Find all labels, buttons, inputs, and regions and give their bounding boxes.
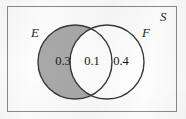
region-value-f-only: 0.4 xyxy=(108,55,134,68)
region-value-e-and-f: 0.1 xyxy=(79,55,105,68)
set-label-e: E xyxy=(31,26,39,39)
region-value-e-only: 0.3 xyxy=(50,55,76,68)
venn-diagram-figure: S E F 0.3 0.1 0.4 xyxy=(0,0,186,119)
universal-set-label: S xyxy=(160,10,167,23)
set-label-f: F xyxy=(142,26,150,39)
